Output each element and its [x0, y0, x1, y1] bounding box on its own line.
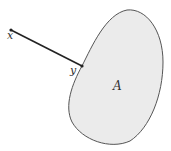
- label-y: y: [69, 64, 77, 77]
- diagram: x y A: [0, 0, 171, 151]
- point-y: [80, 64, 83, 67]
- label-a: A: [112, 79, 122, 93]
- segment-x-y: [11, 30, 82, 66]
- label-x: x: [7, 29, 14, 42]
- set-a-region: [69, 10, 163, 144]
